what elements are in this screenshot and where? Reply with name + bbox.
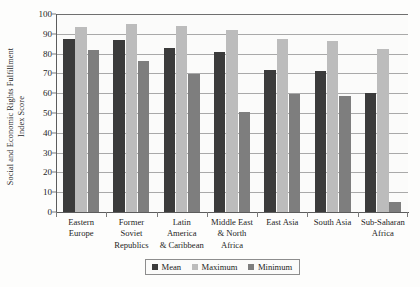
y-axis-title-line-2: Index Score (17, 47, 28, 184)
bar-maximum[interactable] (277, 39, 288, 212)
y-axis-tick-label: 100 (28, 9, 52, 19)
chart-figure: Social and Economic Rights Fulfillment I… (0, 0, 420, 287)
bar-minimum[interactable] (188, 74, 199, 212)
legend-swatch-icon (248, 264, 254, 270)
bar-mean[interactable] (315, 71, 326, 212)
legend-swatch-icon (152, 264, 158, 270)
y-axis-tick-label: 10 (28, 187, 52, 197)
chart-legend: MeanMaximumMinimum (145, 259, 300, 275)
plot-area (56, 14, 408, 212)
bar-minimum[interactable] (138, 61, 149, 212)
bar-minimum[interactable] (88, 50, 99, 212)
bar-maximum[interactable] (327, 41, 338, 212)
y-axis-tick-label: 80 (28, 49, 52, 59)
legend-swatch-icon (192, 264, 198, 270)
bar-mean[interactable] (63, 39, 74, 212)
y-axis-tick-label: 30 (28, 148, 52, 158)
bar-group (257, 14, 307, 212)
y-axis-tick-label: 90 (28, 29, 52, 39)
bar-group (106, 14, 156, 212)
bar-group (157, 14, 207, 212)
x-axis-label-line: Africa (201, 240, 263, 251)
bar-group (358, 14, 408, 212)
bar-group (307, 14, 357, 212)
bar-groups (56, 14, 408, 212)
x-axis-label-line: Sub-Saharan (352, 217, 414, 228)
bar-group (207, 14, 257, 212)
y-axis-tick-label: 60 (28, 88, 52, 98)
y-axis-tick-label: 40 (28, 128, 52, 138)
legend-item-maximum[interactable]: Maximum (192, 262, 237, 272)
bar-maximum[interactable] (75, 27, 86, 212)
legend-item-minimum[interactable]: Minimum (248, 262, 292, 272)
y-axis-title-line-1: Social and Economic Rights Fulfillment (7, 47, 18, 184)
bar-minimum[interactable] (389, 202, 400, 212)
bar-mean[interactable] (214, 52, 225, 212)
y-axis-tick-label: 70 (28, 68, 52, 78)
x-axis-label-line: & North (201, 228, 263, 239)
legend-label: Minimum (258, 262, 292, 272)
bar-minimum[interactable] (339, 96, 350, 212)
legend-item-mean[interactable]: Mean (152, 262, 181, 272)
bar-maximum[interactable] (176, 26, 187, 212)
bar-group (56, 14, 106, 212)
bar-minimum[interactable] (239, 112, 250, 212)
bar-maximum[interactable] (377, 49, 388, 212)
legend-label: Mean (162, 262, 182, 272)
bar-minimum[interactable] (289, 94, 300, 212)
x-axis-tick-label: Sub-SaharanAfrica (352, 217, 414, 240)
y-axis-line (56, 14, 57, 213)
y-axis-tick-label: 0 (28, 207, 52, 217)
x-axis-tick-labels: EasternEuropeFormerSovietRepublicsLatinA… (56, 217, 409, 263)
bar-maximum[interactable] (226, 30, 237, 212)
y-axis-tick-labels: 0102030405060708090100 (28, 14, 52, 212)
bar-mean[interactable] (264, 70, 275, 212)
legend-label: Maximum (202, 262, 238, 272)
bar-mean[interactable] (113, 40, 124, 212)
bar-mean[interactable] (164, 48, 175, 212)
x-axis-label-line: Africa (352, 228, 414, 239)
bar-maximum[interactable] (126, 24, 137, 212)
y-axis-tick-label: 50 (28, 108, 52, 118)
y-axis-tick-label: 20 (28, 167, 52, 177)
bar-mean[interactable] (365, 93, 376, 212)
